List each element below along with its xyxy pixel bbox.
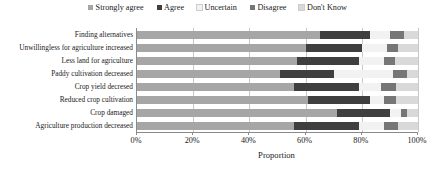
- legend-item[interactable]: Strongly agree: [88, 2, 143, 13]
- bar-segment[interactable]: [137, 83, 294, 91]
- x-tick-label: 20%: [185, 136, 200, 146]
- bar-segment[interactable]: [359, 57, 384, 65]
- x-axis-title: Proportion: [136, 150, 417, 161]
- bar-segment[interactable]: [297, 57, 359, 65]
- bar-segment[interactable]: [384, 122, 398, 130]
- bar-segment[interactable]: [137, 44, 306, 52]
- bar-segment[interactable]: [407, 109, 418, 117]
- legend-item[interactable]: Agree: [157, 2, 185, 13]
- bar-segment[interactable]: [306, 44, 362, 52]
- bar-row[interactable]: [137, 44, 418, 52]
- bar-segment[interactable]: [384, 96, 395, 104]
- bar-row[interactable]: [137, 122, 418, 130]
- bar-segment[interactable]: [407, 70, 418, 78]
- category-label: Less land for agriculture: [0, 57, 133, 65]
- bar-segment[interactable]: [137, 57, 297, 65]
- bar-segment[interactable]: [398, 122, 418, 130]
- bar-segment[interactable]: [395, 57, 417, 65]
- x-tick-label: 0%: [131, 136, 142, 146]
- bar-row[interactable]: [137, 96, 418, 104]
- bar-segment[interactable]: [387, 44, 398, 52]
- bar-segment[interactable]: [137, 122, 294, 130]
- bar-row[interactable]: [137, 31, 418, 39]
- stacked-bar-chart: Strongly agreeAgreeUncertainDisagreeDon'…: [0, 0, 435, 173]
- bar-segment[interactable]: [384, 57, 395, 65]
- x-tick-mark: [305, 132, 306, 135]
- bar-segment[interactable]: [359, 122, 384, 130]
- bar-segment[interactable]: [280, 70, 333, 78]
- bar-segment[interactable]: [390, 109, 401, 117]
- bar-segment[interactable]: [137, 109, 337, 117]
- gridline: [418, 28, 419, 132]
- bar-segment[interactable]: [390, 31, 404, 39]
- legend-item[interactable]: Uncertain: [197, 2, 237, 13]
- bar-row[interactable]: [137, 70, 418, 78]
- bar-row[interactable]: [137, 109, 418, 117]
- bar-segment[interactable]: [393, 70, 407, 78]
- bar-row[interactable]: [137, 83, 418, 91]
- x-tick-label: 100%: [407, 136, 426, 146]
- plot-inner: [137, 28, 418, 132]
- bar-segment[interactable]: [337, 109, 390, 117]
- legend-swatch-icon: [250, 5, 255, 10]
- bar-segment[interactable]: [137, 96, 308, 104]
- legend-swatch-icon: [157, 5, 162, 10]
- bar-segment[interactable]: [396, 96, 418, 104]
- bar-segment[interactable]: [320, 31, 371, 39]
- x-tick-mark: [417, 132, 418, 135]
- legend-label: Agree: [164, 2, 184, 13]
- category-label: Reduced crop cultivation: [0, 96, 133, 104]
- chart-legend: Strongly agreeAgreeUncertainDisagreeDon'…: [0, 2, 435, 13]
- category-axis-labels: Finding alternativesUnwillingless for ag…: [0, 28, 133, 132]
- bar-segment[interactable]: [362, 44, 387, 52]
- x-tick-mark: [192, 132, 193, 135]
- category-label: Crop damaged: [0, 109, 133, 117]
- x-tick-label: 80%: [353, 136, 368, 146]
- legend-item[interactable]: Disagree: [250, 2, 287, 13]
- category-label: Agriculture production decreased: [0, 122, 133, 130]
- x-tick-mark: [136, 132, 137, 135]
- bar-segment[interactable]: [359, 83, 381, 91]
- bar-segment[interactable]: [294, 83, 359, 91]
- legend-swatch-icon: [197, 5, 202, 10]
- bar-segment[interactable]: [137, 31, 320, 39]
- plot-area: [136, 28, 419, 132]
- legend-label: Disagree: [257, 2, 286, 13]
- category-label: Unwillingless for agriculture increased: [0, 44, 133, 52]
- bar-segment[interactable]: [294, 122, 359, 130]
- x-axis-line: [136, 132, 418, 133]
- legend-label: Don't Know: [307, 2, 347, 13]
- bar-segment[interactable]: [398, 44, 418, 52]
- x-tick-mark: [361, 132, 362, 135]
- category-label: Finding alternatives: [0, 31, 133, 39]
- x-tick-label: 60%: [297, 136, 312, 146]
- bar-row[interactable]: [137, 57, 418, 65]
- bar-segment[interactable]: [334, 70, 393, 78]
- category-label: Paddy cultivation decreased: [0, 70, 133, 78]
- bar-segment[interactable]: [370, 96, 384, 104]
- bar-segment[interactable]: [381, 83, 395, 91]
- legend-label: Strongly agree: [96, 2, 144, 13]
- x-tick-label: 40%: [241, 136, 256, 146]
- bar-segment[interactable]: [308, 96, 370, 104]
- legend-label: Uncertain: [205, 2, 237, 13]
- x-tick-labels: 0%20%40%60%80%100%: [0, 136, 435, 148]
- bar-segment[interactable]: [396, 83, 418, 91]
- category-label: Crop yield decresed: [0, 83, 133, 91]
- bar-segment[interactable]: [370, 31, 390, 39]
- legend-swatch-icon: [299, 5, 304, 10]
- bar-segment[interactable]: [404, 31, 418, 39]
- legend-swatch-icon: [88, 5, 93, 10]
- legend-item[interactable]: Don't Know: [299, 2, 346, 13]
- bar-segment[interactable]: [137, 70, 280, 78]
- x-tick-mark: [248, 132, 249, 135]
